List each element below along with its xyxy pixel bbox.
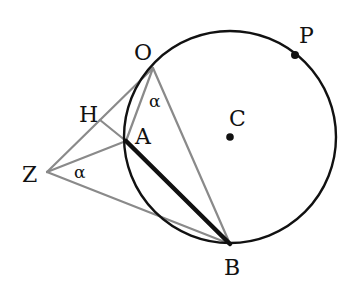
label-P: P bbox=[299, 23, 314, 48]
label-Z: Z bbox=[22, 162, 37, 187]
label-A: A bbox=[134, 124, 152, 149]
angle-label-O: α bbox=[149, 91, 161, 111]
label-H: H bbox=[79, 102, 98, 127]
segment-HA bbox=[100, 120, 126, 141]
label-O: O bbox=[134, 40, 152, 65]
label-C: C bbox=[229, 106, 246, 131]
label-B: B bbox=[224, 255, 240, 280]
point-C bbox=[226, 133, 234, 141]
geometry-diagram: O P C H A Z B α α bbox=[0, 0, 357, 287]
angle-label-Z: α bbox=[74, 162, 86, 182]
point-P bbox=[291, 51, 299, 59]
segment-ZA bbox=[47, 141, 126, 172]
